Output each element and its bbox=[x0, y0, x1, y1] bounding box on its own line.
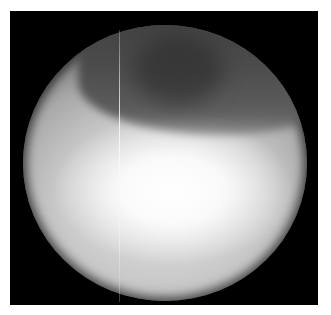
circular-field-of-view bbox=[23, 25, 307, 301]
vertical-artifact-line bbox=[119, 30, 120, 302]
image-frame bbox=[10, 11, 318, 305]
vignette bbox=[23, 25, 307, 301]
